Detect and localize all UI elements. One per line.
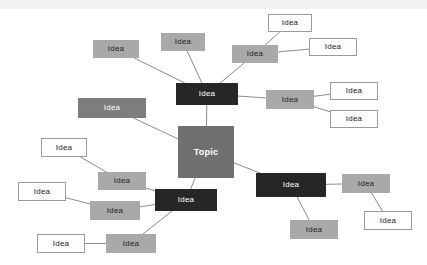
connector-g_bl_b-to-w_left_b: [66, 198, 90, 204]
node-label: Idea: [175, 38, 191, 46]
connector-g_right_mid-to-w_right_b: [314, 107, 330, 112]
node-label: Idea: [199, 90, 215, 98]
node-label: Idea: [56, 144, 72, 152]
idea-node-w_top_a[interactable]: Idea: [268, 14, 312, 32]
connector-g_topright-to-w_top_b: [278, 49, 309, 52]
connector-topic-to-g_left_mid: [133, 118, 178, 139]
connector-g_topright-to-w_top_a: [265, 32, 280, 45]
node-label: Idea: [247, 50, 263, 58]
connector-topic-to-hub_left: [191, 178, 196, 189]
idea-node-w_right_b[interactable]: Idea: [330, 110, 378, 128]
connector-g_right_mid-to-w_right_a: [314, 94, 330, 96]
node-label: Idea: [358, 180, 374, 188]
idea-node-g_right_mid[interactable]: Idea: [266, 90, 314, 109]
node-label: Idea: [107, 207, 123, 215]
idea-node-g_bl_a[interactable]: Idea: [98, 172, 146, 190]
idea-node-w_left_a[interactable]: Idea: [41, 138, 87, 157]
idea-node-g_bl_b[interactable]: Idea: [90, 201, 140, 220]
connector-g_br_a-to-w_br_a: [372, 193, 383, 211]
connector-hub_left-to-g_bl_b: [140, 205, 155, 207]
idea-node-hub_left[interactable]: Idea: [155, 189, 217, 211]
idea-node-w_top_b[interactable]: Idea: [309, 38, 357, 56]
idea-node-g_topmid[interactable]: Idea: [161, 33, 205, 51]
node-label: Idea: [53, 240, 69, 248]
connector-hub_left-to-g_bl_a: [146, 188, 155, 191]
node-label: Topic: [194, 148, 218, 157]
node-label: Idea: [114, 177, 130, 185]
idea-node-g_topright[interactable]: Idea: [232, 45, 278, 63]
node-label: Idea: [325, 43, 341, 51]
node-label: Idea: [282, 96, 298, 104]
node-label: Idea: [346, 115, 362, 123]
mind-map-canvas: TopicIdeaIdeaIdeaIdeaIdeaIdeaIdeaIdeaIde…: [0, 0, 427, 265]
idea-node-w_right_a[interactable]: Idea: [330, 82, 378, 100]
node-label: Idea: [283, 181, 299, 189]
idea-node-g_bl_c[interactable]: Idea: [106, 234, 156, 253]
idea-node-w_left_c[interactable]: Idea: [37, 234, 85, 253]
node-label: Idea: [108, 45, 124, 53]
idea-node-g_topleft[interactable]: Idea: [93, 40, 139, 58]
idea-node-hub_top[interactable]: Idea: [176, 83, 238, 105]
node-label: Idea: [34, 188, 50, 196]
idea-node-g_br_b[interactable]: Idea: [290, 220, 338, 239]
idea-node-g_left_mid[interactable]: Idea: [78, 98, 146, 118]
node-label: Idea: [306, 226, 322, 234]
idea-node-g_br_a[interactable]: Idea: [342, 174, 390, 193]
node-label: Idea: [380, 217, 396, 225]
connector-hub_top-to-g_topleft: [134, 58, 185, 83]
connector-hub_top-to-g_topright: [220, 63, 244, 83]
connector-hub_left-to-g_bl_c: [143, 211, 172, 234]
connector-hub_top-to-g_topmid: [187, 51, 202, 83]
topic-node[interactable]: Topic: [178, 126, 234, 178]
node-label: Idea: [346, 87, 362, 95]
idea-node-w_br_a[interactable]: Idea: [364, 211, 412, 230]
connector-g_bl_a-to-w_left_a: [80, 157, 106, 172]
node-label: Idea: [178, 196, 194, 204]
connector-topic-to-hub_right: [234, 163, 260, 173]
idea-node-w_left_b[interactable]: Idea: [18, 182, 66, 201]
idea-node-hub_right[interactable]: Idea: [256, 173, 326, 197]
node-label: Idea: [123, 240, 139, 248]
node-label: Idea: [282, 19, 298, 27]
node-label: Idea: [104, 104, 120, 112]
connector-hub_right-to-g_br_b: [297, 197, 309, 220]
connector-hub_top-to-g_right_mid: [238, 96, 266, 98]
